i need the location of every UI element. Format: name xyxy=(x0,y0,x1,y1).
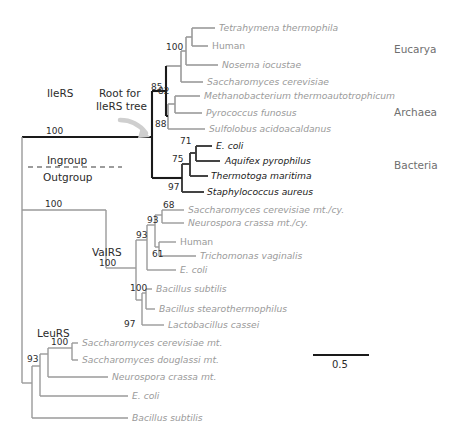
domain-label-eucarya: Eucarya xyxy=(394,44,436,55)
taxon-label-pyrococcus: Pyrococcus funosus xyxy=(206,108,297,117)
bootstrap-archaea-all: 88 xyxy=(155,120,166,129)
taxon-label-trichomonas: Trichomonas vaginalis xyxy=(200,251,302,260)
taxon-label-neurospora-mt: Neurospora crassa mt. xyxy=(112,372,216,381)
gene-label-ilers: IleRS xyxy=(47,88,73,99)
taxon-label-ecoli-val: E. coli xyxy=(180,265,207,274)
taxon-label-neurospora-mtcy: Neurospora crassa mt./cy. xyxy=(188,218,308,227)
scale-bar-label: 0.5 xyxy=(332,360,348,370)
figure-canvas: Tetrahymena thermophila Human Nosema ioc… xyxy=(0,0,464,435)
root-note-line1: Root for xyxy=(99,88,141,99)
taxon-label-thermotoga: Thermotoga maritima xyxy=(211,171,312,180)
taxon-label-sac-cerevisiae-ile: Saccharomyces cerevisiae xyxy=(207,77,329,86)
bootstrap-leurs-93: 93 xyxy=(27,355,38,364)
root-arrow-icon xyxy=(120,120,150,138)
bootstrap-bact-ec-aq: 71 xyxy=(180,137,191,146)
taxon-label-bacillus-subtilis-leu: Bacillus subtilis xyxy=(132,413,203,422)
outgroup-label: Outgroup xyxy=(43,172,93,183)
taxon-label-human-ile: Human xyxy=(212,41,245,50)
ingroup-label: Ingroup xyxy=(47,155,87,166)
bootstrap-valrs-61: 61 xyxy=(152,250,163,259)
taxon-label-bacillus-stearo: Bacillus stearothermophilus xyxy=(159,304,287,313)
bootstrap-bact-all: 97 xyxy=(168,183,179,192)
bootstrap-valrs-93-inner: 93 xyxy=(147,216,158,225)
taxon-label-aquifex: Aquifex pyrophilus xyxy=(225,156,311,165)
gene-label-leurs: LeuRS xyxy=(37,328,70,339)
bootstrap-valrs-68: 68 xyxy=(163,201,174,210)
root-note-line2: IleRS tree xyxy=(96,101,147,112)
taxon-label-staphylococcus: Staphylococcus aureus xyxy=(207,187,313,196)
domain-label-archaea: Archaea xyxy=(394,107,437,118)
archaea-subclade xyxy=(168,96,205,129)
taxon-label-ecoli-leu: E. coli xyxy=(132,391,159,400)
taxon-label-sac-douglassi-mt: Saccharomyces douglassi mt. xyxy=(82,355,219,364)
taxon-label-sac-cerevisiae-mt: Saccharomyces cerevisiae mt. xyxy=(82,338,222,347)
bootstrap-archaea-mp: 82 xyxy=(158,87,169,96)
taxon-label-nosema: Nosema iocustae xyxy=(222,60,301,69)
bootstrap-ilers-eucarya: 100 xyxy=(166,43,183,52)
taxon-label-tetrahymena: Tetrahymena thermophila xyxy=(219,23,338,32)
taxon-label-sulfolobus: Sulfolobus acidoacaldanus xyxy=(209,124,331,133)
bootstrap-valrs-100-root: 100 xyxy=(45,200,62,209)
taxon-label-bacillus-subtilis-val: Bacillus subtilis xyxy=(156,284,227,293)
bootstrap-ingroup-root: 100 xyxy=(46,127,63,136)
bootstrap-leurs-100: 100 xyxy=(51,338,68,347)
eucarya-subclade xyxy=(166,28,218,82)
taxon-label-methanobacterium: Methanobacterium thermoautotrophicum xyxy=(204,91,395,100)
bootstrap-bact-ec-aq-tm: 75 xyxy=(172,155,183,164)
bootstrap-valrs-100-bac: 100 xyxy=(130,284,147,293)
gene-label-valrs: ValRS xyxy=(92,247,122,258)
bootstrap-valrs-crown-100: 100 xyxy=(99,259,116,268)
taxon-label-ecoli-ile: E. coli xyxy=(216,141,243,150)
bootstrap-valrs-93-outer: 93 xyxy=(136,231,147,240)
taxon-label-sac-cer-mtcy: Saccharomyces cerevisiae mt./cy. xyxy=(188,205,344,214)
bootstrap-valrs-97: 97 xyxy=(124,320,135,329)
domain-label-bacteria: Bacteria xyxy=(394,160,438,171)
taxon-label-human-val: Human xyxy=(180,237,213,246)
taxon-label-lactobacillus: Lactobacillus cassei xyxy=(168,320,259,329)
